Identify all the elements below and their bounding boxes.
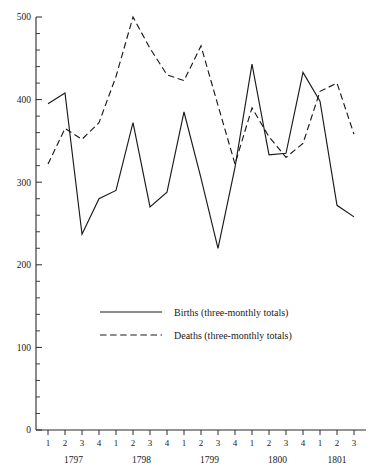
y-axis-tick-label: 0: [26, 425, 31, 435]
x-axis-quarter-label: 4: [165, 438, 170, 448]
y-axis-tick-label: 400: [17, 95, 32, 105]
x-axis-quarter-label: 1: [46, 438, 51, 448]
x-axis-quarter-label: 1: [250, 438, 255, 448]
x-axis-quarter-label: 3: [80, 438, 85, 448]
x-axis-quarter-label: 2: [335, 438, 340, 448]
x-axis-year-label: 1799: [200, 455, 219, 465]
x-axis-quarter-label: 2: [131, 438, 136, 448]
x-axis-quarter-label: 3: [148, 438, 153, 448]
x-axis-quarter-label: 1: [318, 438, 323, 448]
x-axis-year-label: 1797: [64, 455, 83, 465]
x-axis-quarter-label: 3: [216, 438, 221, 448]
chart-canvas: 0100200300400500 12341234123412341231797…: [0, 0, 373, 472]
x-axis-year-label: 1801: [328, 455, 347, 465]
x-axis-quarter-label: 4: [301, 438, 306, 448]
x-axis-year-label: 1798: [132, 455, 151, 465]
x-axis-quarter-label: 4: [233, 438, 238, 448]
line-chart: 0100200300400500 12341234123412341231797…: [0, 0, 373, 472]
x-axis-quarter-label: 1: [114, 438, 119, 448]
x-axis-quarter-label: 1: [182, 438, 187, 448]
y-axis-tick-label: 300: [17, 178, 32, 188]
x-axis-quarter-label: 2: [267, 438, 272, 448]
legend-label-deaths: Deaths (three-monthly totals): [174, 330, 292, 342]
x-axis-quarter-label: 3: [352, 438, 357, 448]
y-axis-tick-label: 100: [17, 343, 32, 353]
y-axis-tick-label: 500: [17, 12, 32, 22]
legend-label-births: Births (three-monthly totals): [174, 307, 288, 319]
x-axis-quarter-label: 2: [63, 438, 68, 448]
x-axis-quarter-label: 3: [284, 438, 289, 448]
chart-background: [0, 0, 373, 472]
y-axis-tick-label: 200: [17, 260, 32, 270]
x-axis-year-label: 1800: [268, 455, 287, 465]
x-axis-quarter-label: 4: [97, 438, 102, 448]
x-axis-quarter-label: 2: [199, 438, 204, 448]
